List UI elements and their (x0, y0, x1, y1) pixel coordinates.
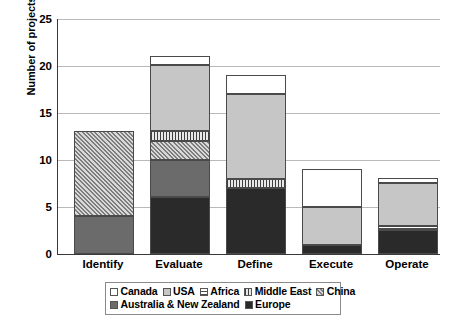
x-label-operate: Operate (377, 258, 437, 270)
legend-label-europe: Europe (255, 298, 290, 311)
x-label-identify: Identify (73, 258, 133, 270)
swatch-australia-new-zealand-icon (110, 301, 118, 309)
segment-evaluate-canada (150, 56, 210, 65)
stacked-bar-chart: Number of projects 25 20 15 10 5 0 (0, 0, 449, 326)
bar-define[interactable] (226, 75, 286, 254)
bar-identify[interactable] (74, 131, 134, 254)
segment-evaluate-china (150, 141, 210, 160)
plot-area (57, 19, 440, 255)
swatch-middle-east-icon (244, 288, 252, 296)
legend-item-canada[interactable]: Canada (110, 285, 158, 298)
y-tick-15: 15 (18, 107, 52, 119)
swatch-usa-icon (163, 288, 171, 296)
legend-item-australia-new-zealand[interactable]: Australia & New Zealand (110, 298, 240, 311)
y-tick-20: 20 (18, 60, 52, 72)
legend-label-usa: USA (173, 285, 195, 298)
legend-row-1: Canada USA Africa Middle East China (110, 285, 337, 298)
x-label-execute: Execute (301, 258, 361, 270)
segment-evaluate-europe (150, 197, 210, 254)
x-label-define: Define (225, 258, 285, 270)
segment-identify-china (74, 131, 134, 216)
legend-item-middle-east[interactable]: Middle East (244, 285, 311, 298)
legend-label-australia-new-zealand: Australia & New Zealand (121, 298, 240, 311)
segment-execute-canada (302, 169, 362, 207)
segment-evaluate-australia-new-zealand (150, 160, 210, 198)
legend-item-europe[interactable]: Europe (245, 298, 291, 311)
legend-label-china: China (327, 285, 355, 298)
swatch-africa-icon (200, 288, 208, 296)
bar-execute[interactable] (302, 169, 362, 254)
swatch-europe-icon (245, 301, 253, 309)
segment-evaluate-middle-east (150, 131, 210, 140)
bar-evaluate[interactable] (150, 56, 210, 254)
segment-execute-usa (302, 207, 362, 245)
swatch-canada-icon (110, 288, 118, 296)
y-tick-25: 25 (18, 13, 52, 25)
segment-define-usa (226, 94, 286, 179)
y-tick-10: 10 (18, 154, 52, 166)
segment-define-europe (226, 188, 286, 254)
legend-row-2: Australia & New Zealand Europe (110, 298, 337, 311)
segment-operate-europe (378, 230, 438, 254)
legend-label-middle-east: Middle East (255, 285, 312, 298)
y-tick-0: 0 (18, 248, 52, 260)
legend-label-canada: Canada (121, 285, 158, 298)
segment-identify-australia-new-zealand (74, 216, 134, 254)
swatch-china-icon (316, 288, 324, 296)
legend-label-africa: Africa (210, 285, 239, 298)
segment-operate-canada (378, 178, 438, 183)
segment-operate-africa (378, 226, 438, 231)
x-label-evaluate: Evaluate (149, 258, 209, 270)
segment-execute-europe (302, 245, 362, 254)
y-tick-5: 5 (18, 201, 52, 213)
legend-item-usa[interactable]: USA (163, 285, 195, 298)
legend-item-china[interactable]: China (316, 285, 355, 298)
segment-define-canada (226, 75, 286, 94)
segment-evaluate-usa (150, 65, 210, 131)
legend: Canada USA Africa Middle East China (105, 282, 341, 315)
bars-container (58, 19, 440, 254)
legend-item-africa[interactable]: Africa (200, 285, 239, 298)
segment-operate-usa (378, 183, 438, 226)
segment-define-middle-east (226, 179, 286, 188)
bar-operate[interactable] (378, 179, 438, 255)
